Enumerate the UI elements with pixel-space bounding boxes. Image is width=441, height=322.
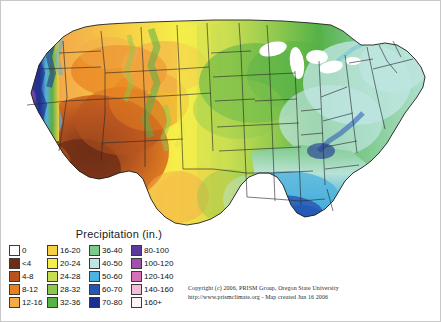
legend-entry[interactable]: 28-32: [47, 283, 87, 295]
legend-label: 60-70: [102, 284, 122, 295]
legend-swatch: [47, 271, 58, 282]
legend-swatch: [89, 258, 100, 269]
legend-swatch: [131, 258, 142, 269]
legend-swatch: [9, 284, 20, 295]
legend-swatch: [47, 297, 58, 308]
legend-swatch: [131, 297, 142, 308]
legend-label: 100-120: [144, 258, 173, 269]
legend-swatch: [9, 271, 20, 282]
legend-label: 0: [22, 245, 26, 256]
legend-label: 28-32: [60, 284, 80, 295]
legend-label: 16-20: [60, 245, 80, 256]
legend-column-2: 16-20 20-24 24-28 28-32 32-36: [47, 244, 87, 308]
legend-swatch: [9, 297, 20, 308]
legend-column-1: 0 <4 4-8 8-12 12-16: [9, 244, 45, 308]
legend-column-4: 80-100 100-120 120-140 140-160 160+: [131, 244, 183, 308]
legend-entry[interactable]: 0: [9, 244, 45, 256]
legend-swatch: [131, 245, 142, 256]
legend-swatch: [89, 245, 100, 256]
legend-label: 4-8: [22, 271, 34, 282]
legend-label: 40-50: [102, 258, 122, 269]
us-precipitation-raster[interactable]: [1, 1, 441, 251]
legend-entry[interactable]: 80-100: [131, 244, 183, 256]
legend-entry[interactable]: 4-8: [9, 270, 45, 282]
credit-line-2[interactable]: http://www.prismclimate.org - Map create…: [188, 293, 339, 302]
legend-label: 12-16: [22, 297, 42, 308]
legend-entry[interactable]: 70-80: [89, 296, 129, 308]
legend-swatch: [89, 284, 100, 295]
legend-entry[interactable]: 20-24: [47, 257, 87, 269]
legend-entry[interactable]: 140-160: [131, 283, 183, 295]
legend-entry[interactable]: <4: [9, 257, 45, 269]
legend-entry[interactable]: 60-70: [89, 283, 129, 295]
legend-label: 32-36: [60, 297, 80, 308]
precipitation-map-screenshot: Precipitation (in.) 0 <4 4-8 8-1: [0, 0, 441, 322]
legend-label: 8-12: [22, 284, 38, 295]
legend-entry[interactable]: 8-12: [9, 283, 45, 295]
legend-entry[interactable]: 40-50: [89, 257, 129, 269]
legend-swatch: [9, 245, 20, 256]
legend-title: Precipitation (in.): [43, 228, 195, 240]
legend-entry[interactable]: 160+: [131, 296, 183, 308]
legend-swatch: [89, 297, 100, 308]
legend-entry[interactable]: 16-20: [47, 244, 87, 256]
legend-label: 120-140: [144, 271, 173, 282]
legend-entry[interactable]: 32-36: [47, 296, 87, 308]
legend-swatch: [131, 284, 142, 295]
legend-entry[interactable]: 24-28: [47, 270, 87, 282]
legend-column-3: 36-40 40-50 50-60 60-70 70-80: [89, 244, 129, 308]
credit-line-1: Copyright (c) 2006, PRISM Group, Oregon …: [188, 284, 339, 293]
legend-label: 70-80: [102, 297, 122, 308]
legend-label: 36-40: [102, 245, 122, 256]
legend-swatch: [9, 258, 20, 269]
map-area[interactable]: [1, 1, 441, 251]
legend: Precipitation (in.) 0 <4 4-8 8-1: [9, 228, 195, 308]
legend-entry[interactable]: 36-40: [89, 244, 129, 256]
legend-label: 80-100: [144, 245, 169, 256]
legend-label: 24-28: [60, 271, 80, 282]
legend-label: <4: [22, 258, 31, 269]
legend-swatch: [131, 271, 142, 282]
legend-label: 140-160: [144, 284, 173, 295]
legend-columns: 0 <4 4-8 8-12 12-16: [9, 244, 195, 308]
copyright-credit: Copyright (c) 2006, PRISM Group, Oregon …: [188, 284, 339, 301]
legend-entry[interactable]: 120-140: [131, 270, 183, 282]
legend-swatch: [47, 258, 58, 269]
legend-entry[interactable]: 12-16: [9, 296, 45, 308]
legend-entry[interactable]: 50-60: [89, 270, 129, 282]
legend-label: 50-60: [102, 271, 122, 282]
legend-swatch: [89, 271, 100, 282]
legend-label: 20-24: [60, 258, 80, 269]
legend-label: 160+: [144, 297, 162, 308]
legend-swatch: [47, 284, 58, 295]
legend-swatch: [47, 245, 58, 256]
legend-entry[interactable]: 100-120: [131, 257, 183, 269]
